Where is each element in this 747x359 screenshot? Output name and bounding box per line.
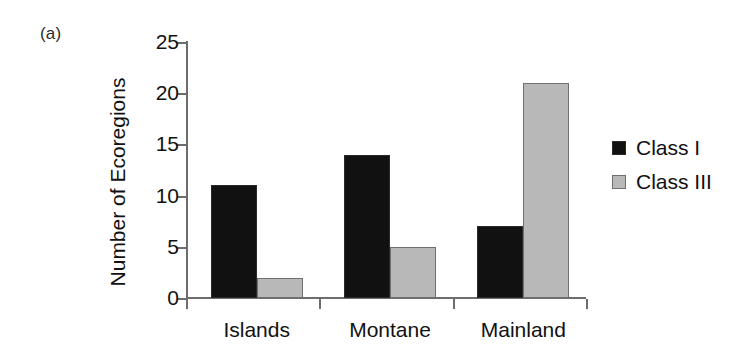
figure-panel-a: (a) Number of Ecoregions 0510152025 Isla… [0,0,747,359]
y-tick-label: 0 [167,286,179,310]
y-tick-label: 15 [156,132,179,156]
bar-islands-class-i [211,185,257,298]
y-tick-label: 20 [156,81,179,105]
legend: Class I Class III [612,131,712,199]
legend-swatch-class-iii [612,175,626,189]
legend-label-class-iii: Class III [636,170,712,194]
y-axis-title: Number of Ecoregions [106,42,130,322]
legend-item-class-i: Class I [612,131,712,165]
legend-label-class-i: Class I [636,136,700,160]
y-tick-label: 25 [156,30,179,54]
legend-item-class-iii: Class III [612,165,712,199]
bar-mainland-class-i [477,226,523,298]
panel-label: (a) [40,24,61,44]
x-group-tick-end [586,299,588,309]
x-category-label-montane: Montane [349,318,431,342]
legend-swatch-class-i [612,141,626,155]
bar-islands-class-iii [257,278,303,298]
bar-montane-class-i [344,155,390,298]
x-group-tick [186,299,188,309]
x-category-label-islands: Islands [223,318,290,342]
x-group-tick [453,299,455,309]
x-category-label-mainland: Mainland [481,318,566,342]
x-group-tick [319,299,321,309]
y-tick-label: 5 [167,235,179,259]
y-tick-label: 10 [156,184,179,208]
bar-montane-class-iii [390,247,436,298]
bar-mainland-class-iii [523,83,569,298]
plot-area [186,42,586,298]
